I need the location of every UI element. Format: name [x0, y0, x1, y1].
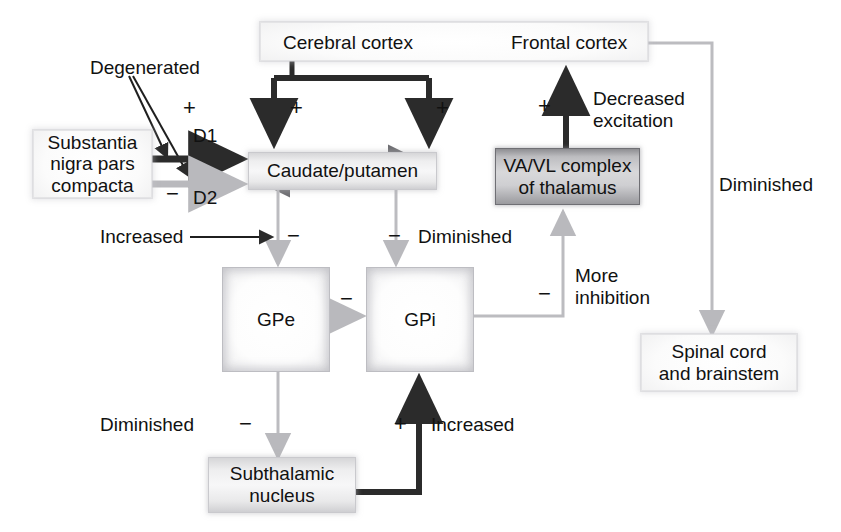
node-caudate-putamen[interactable]: Caudate/putamen — [248, 152, 437, 190]
node-frontal-cortex-label: Frontal cortex — [511, 32, 627, 54]
node-stn-line1: Subthalamic — [230, 463, 335, 485]
node-substantia-nigra-line1: Substantia — [48, 132, 138, 154]
node-gpi-label: GPi — [404, 309, 436, 331]
frontal-cortex-to-spinal-wire — [648, 43, 712, 334]
label-diminished-mid: Diminished — [418, 226, 512, 248]
label-d1: D1 — [193, 125, 217, 147]
node-cerebral-cortex-label: Cerebral cortex — [283, 32, 413, 54]
node-spinal-cord[interactable]: Spinal cord and brainstem — [641, 334, 797, 391]
node-spinal-line1: Spinal cord — [671, 341, 766, 363]
sign-minus-gpe-gpi: − — [340, 288, 353, 310]
sign-plus-stn-gpi: + — [394, 413, 407, 435]
label-more-inhibition-line1: More — [575, 265, 618, 287]
node-cortex[interactable]: Cerebral cortex Frontal cortex — [260, 22, 648, 61]
node-va-vl-thalamus[interactable]: VA/VL complex of thalamus — [495, 148, 640, 205]
label-diminished-right: Diminished — [719, 174, 813, 196]
label-decreased-excitation-line1: Decreased — [593, 88, 685, 110]
label-degenerated: Degenerated — [90, 57, 200, 79]
sign-minus-gpi-thalamus: − — [538, 283, 551, 305]
label-d2: D2 — [193, 187, 217, 209]
node-spinal-line2: and brainstem — [659, 363, 779, 385]
sign-plus-cortex-left: + — [290, 97, 303, 119]
label-increased-bottom: Increased — [431, 414, 514, 436]
node-gpe-label: GPe — [257, 309, 295, 331]
node-subthalamic-nucleus[interactable]: Subthalamic nucleus — [208, 457, 356, 513]
label-diminished-bottom: Diminished — [100, 414, 194, 436]
node-gpi[interactable]: GPi — [366, 267, 474, 372]
stn-to-gpi-wire — [356, 380, 419, 492]
sign-plus-cortex-right: + — [436, 97, 449, 119]
node-caudate-putamen-label: Caudate/putamen — [267, 160, 418, 182]
sign-minus-caudate-left: − — [287, 225, 300, 247]
sign-minus-d2: − — [166, 183, 179, 205]
node-substantia-nigra-line3: compacta — [51, 175, 133, 197]
connector-layer — [0, 0, 841, 532]
label-more-inhibition-line2: inhibition — [575, 287, 650, 309]
diagram-canvas: Cerebral cortex Frontal cortex Substanti… — [0, 0, 841, 532]
label-increased-left: Increased — [100, 226, 183, 248]
sign-minus-gpe-stn: − — [239, 413, 252, 435]
node-va-vl-line1: VA/VL complex — [504, 155, 632, 177]
sign-plus-d1: + — [183, 97, 196, 119]
sign-minus-caudate-right: − — [388, 225, 401, 247]
node-stn-line2: nucleus — [249, 485, 315, 507]
node-substantia-nigra-line2: nigra pars — [50, 153, 135, 175]
node-substantia-nigra[interactable]: Substantia nigra pars compacta — [33, 130, 152, 198]
node-va-vl-line2: of thalamus — [518, 177, 616, 199]
label-decreased-excitation-line2: excitation — [593, 110, 673, 132]
node-gpe[interactable]: GPe — [222, 267, 330, 372]
sign-plus-thalamus: + — [538, 95, 551, 117]
